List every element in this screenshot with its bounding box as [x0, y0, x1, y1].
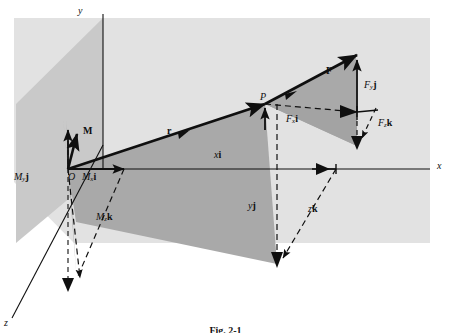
vector-label-r: r — [167, 126, 171, 136]
figure-container: y x z O P F r M Fxi Fyj Fzk Mxi Myj Mzk … — [0, 0, 451, 333]
axis-label-x: x — [437, 161, 441, 171]
figure-caption: Fig. 2-1 — [0, 325, 451, 333]
force-y-component-label: Fyj — [364, 80, 376, 91]
vector-label-F: F — [326, 66, 332, 76]
position-z-component-label: zk — [308, 204, 317, 214]
force-x-unit: i — [295, 113, 298, 124]
position-x-bold: i — [218, 149, 221, 160]
moment-z-component-label: Mzk — [96, 212, 113, 223]
position-y-bold: j — [252, 200, 255, 211]
moment-x-unit: i — [93, 171, 96, 182]
position-y-component-label: yj — [248, 201, 256, 211]
moment-y-tip — [62, 278, 74, 292]
point-label-p: P — [260, 92, 266, 102]
moment-x-component-label: Mxi — [82, 172, 96, 183]
vector-diagram — [0, 0, 451, 333]
moment-y-unit: j — [25, 171, 28, 182]
point-label-origin: O — [68, 172, 75, 182]
force-z-unit: k — [387, 117, 393, 128]
force-z-component-label: Fzk — [378, 118, 392, 129]
moment-y-component-label: Myj — [14, 172, 29, 183]
position-x-component-label: xi — [214, 150, 221, 160]
axis-label-y: y — [78, 6, 82, 16]
moment-z-unit: k — [107, 211, 113, 222]
position-z-bold: k — [312, 203, 318, 214]
force-x-component-label: Fxi — [286, 114, 298, 125]
force-y-unit: j — [373, 79, 376, 90]
vector-label-M: M — [83, 126, 92, 136]
